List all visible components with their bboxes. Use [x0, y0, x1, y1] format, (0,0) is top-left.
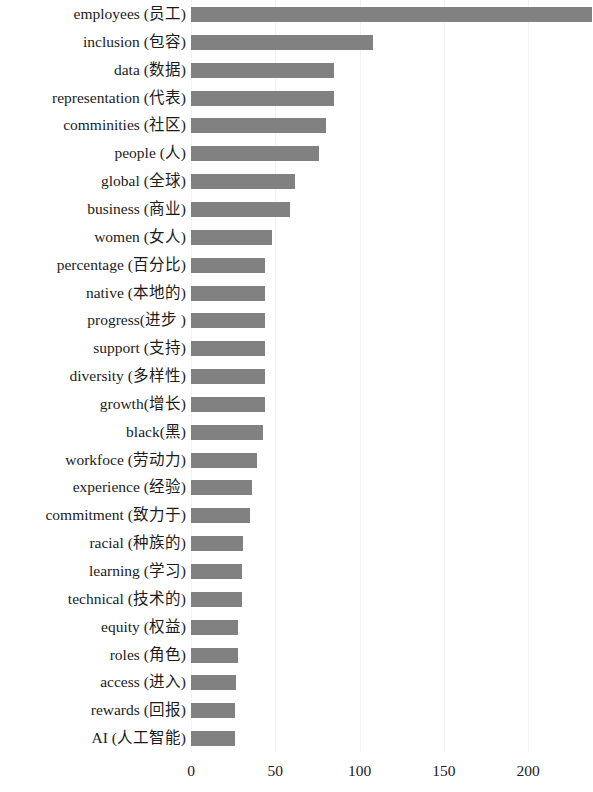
- bar-chart: employees (员工)inclusion (包容)data (数据)rep…: [0, 0, 593, 792]
- category-label: inclusion (包容): [0, 34, 186, 50]
- category-label: commitment (致力于): [0, 507, 186, 523]
- bar: [191, 146, 319, 161]
- bar: [191, 313, 265, 328]
- bar: [191, 648, 238, 663]
- bar-row: [191, 501, 593, 530]
- bar: [191, 731, 235, 746]
- bar: [191, 592, 242, 607]
- category-label: employees (员工): [0, 6, 186, 22]
- category-label: workfoce (劳动力): [0, 452, 186, 468]
- bar: [191, 675, 236, 690]
- bar: [191, 620, 238, 635]
- bar: [191, 369, 265, 384]
- bar-row: [191, 613, 593, 642]
- category-label: comminities (社区): [0, 117, 186, 133]
- category-axis-labels: employees (员工)inclusion (包容)data (数据)rep…: [0, 0, 186, 752]
- bar-row: [191, 641, 593, 670]
- category-label: technical (技术的): [0, 591, 186, 607]
- bar-row: [191, 724, 593, 753]
- bar-row: [191, 223, 593, 252]
- category-label: roles (角色): [0, 647, 186, 663]
- category-label: progress(进步 ): [0, 312, 186, 328]
- bar-row: [191, 306, 593, 335]
- bar: [191, 564, 242, 579]
- bar-row: [191, 668, 593, 697]
- category-label: women (女人): [0, 229, 186, 245]
- plot-area: [191, 0, 593, 752]
- bar-row: [191, 529, 593, 558]
- bar: [191, 480, 252, 495]
- bar-row: [191, 167, 593, 196]
- x-tick-label: 100: [348, 762, 371, 780]
- category-label: learning (学习): [0, 563, 186, 579]
- category-label: business (商业): [0, 201, 186, 217]
- bar-row: [191, 251, 593, 280]
- category-label: racial (种族的): [0, 535, 186, 551]
- category-label: people (人): [0, 145, 186, 161]
- bar: [191, 35, 373, 50]
- bar: [191, 174, 295, 189]
- bar-row: [191, 111, 593, 140]
- category-label: access (进入): [0, 674, 186, 690]
- x-tick-label: 200: [516, 762, 539, 780]
- bar-row: [191, 56, 593, 85]
- bar: [191, 91, 334, 106]
- bar: [191, 7, 592, 22]
- category-label: data (数据): [0, 62, 186, 78]
- x-tick-label: 0: [187, 762, 195, 780]
- category-label: experience (经验): [0, 479, 186, 495]
- category-label: AI (人工智能): [0, 730, 186, 746]
- bar-row: [191, 696, 593, 725]
- x-tick-label: 50: [268, 762, 284, 780]
- bar-row: [191, 334, 593, 363]
- category-label: global (全球): [0, 173, 186, 189]
- bar: [191, 258, 265, 273]
- bar-row: [191, 28, 593, 57]
- bar: [191, 63, 334, 78]
- category-label: growth(增长): [0, 396, 186, 412]
- bars-layer: [191, 0, 593, 752]
- bar-row: [191, 84, 593, 113]
- bar: [191, 230, 272, 245]
- bar-row: [191, 195, 593, 224]
- bar-row: [191, 0, 593, 29]
- bar: [191, 703, 235, 718]
- category-label: black(黑): [0, 424, 186, 440]
- bar-row: [191, 418, 593, 447]
- category-label: rewards (回报): [0, 702, 186, 718]
- bar: [191, 508, 250, 523]
- category-label: representation (代表): [0, 90, 186, 106]
- bar-row: [191, 585, 593, 614]
- bar: [191, 286, 265, 301]
- bar-row: [191, 279, 593, 308]
- bar: [191, 118, 326, 133]
- bar-row: [191, 139, 593, 168]
- bar-row: [191, 362, 593, 391]
- bar-row: [191, 446, 593, 475]
- category-label: support (支持): [0, 340, 186, 356]
- category-label: native (本地的): [0, 285, 186, 301]
- bar-row: [191, 473, 593, 502]
- bar-row: [191, 390, 593, 419]
- bar: [191, 425, 263, 440]
- bar: [191, 397, 265, 412]
- category-label: equity (权益): [0, 619, 186, 635]
- x-axis: 050100150200: [191, 752, 593, 792]
- bar: [191, 202, 290, 217]
- bar: [191, 536, 243, 551]
- bar-row: [191, 557, 593, 586]
- category-label: percentage (百分比): [0, 257, 186, 273]
- bar: [191, 341, 265, 356]
- bar: [191, 453, 257, 468]
- x-tick-label: 150: [432, 762, 455, 780]
- category-label: diversity (多样性): [0, 368, 186, 384]
